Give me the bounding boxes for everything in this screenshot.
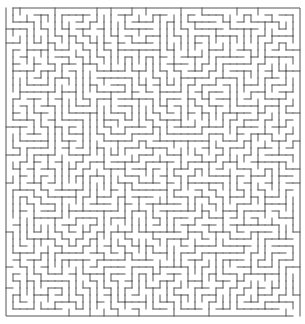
maze: Maze — [0, 0, 305, 324]
maze-grid — [0, 0, 305, 324]
maze-walls — [6, 8, 300, 316]
